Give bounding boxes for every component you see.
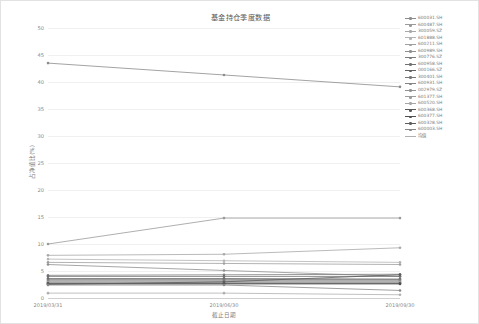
legend-color-swatch <box>405 129 416 130</box>
y-tick-label: 30 <box>37 133 44 139</box>
y-tick-label: 45 <box>37 52 44 58</box>
series-point <box>223 259 226 262</box>
legend-label: 600958.SH <box>418 61 442 68</box>
series-line <box>48 218 400 244</box>
legend-color-swatch <box>405 44 416 45</box>
y-tick-label: 40 <box>37 79 44 85</box>
series-point <box>399 289 402 292</box>
legend-label: 600368.SH <box>418 107 442 114</box>
legend-color-swatch <box>405 136 416 137</box>
legend-label: 300776.SZ <box>418 54 442 61</box>
legend-label: 600211.SH <box>418 41 442 48</box>
legend-color-swatch <box>405 123 416 124</box>
legend-color-swatch <box>405 57 416 58</box>
series-point <box>223 262 226 265</box>
legend-label: 600031.SH <box>418 15 442 22</box>
chart-figure: 基金持仓季度数据 占净值比(%) 截止日期 051015202530354045… <box>0 0 479 324</box>
y-tick-label: 35 <box>37 106 44 112</box>
legend-color-swatch <box>405 51 416 52</box>
y-tick-label: 15 <box>37 214 44 220</box>
legend-label: 601377.SH <box>418 94 442 101</box>
legend-label: 均值 <box>418 133 426 140</box>
legend-color-swatch <box>405 70 416 71</box>
y-tick-label: 20 <box>37 187 44 193</box>
legend-color-swatch <box>405 109 416 110</box>
gridline <box>48 298 400 299</box>
legend-label: 601888.SH <box>418 35 442 42</box>
legend-label: 600487.SH <box>418 22 442 29</box>
series-point <box>223 217 226 220</box>
legend-color-swatch <box>405 37 416 38</box>
legend-color-swatch <box>405 64 416 65</box>
series-point <box>47 284 50 287</box>
x-tick-label: 2019/06/30 <box>210 302 239 308</box>
series-point <box>399 86 402 89</box>
series-point <box>47 292 50 295</box>
legend-color-swatch <box>405 116 416 117</box>
series-point <box>223 74 226 77</box>
y-tick-label: 0 <box>41 295 44 301</box>
series-point <box>47 254 50 257</box>
series-point <box>223 269 226 272</box>
series-point <box>399 273 402 276</box>
legend-label: 600931.SH <box>418 80 442 87</box>
series-point <box>47 243 50 246</box>
legend-label: 002979.SZ <box>418 87 442 94</box>
legend-color-swatch <box>405 96 416 97</box>
x-tick-label: 2019/09/30 <box>386 302 415 308</box>
series-point <box>399 293 402 296</box>
y-axis-label: 占净值比(%) <box>28 145 36 179</box>
legend-color-swatch <box>405 77 416 78</box>
legend-label: 600377.SH <box>418 113 442 120</box>
x-axis-label: 截止日期 <box>48 311 400 319</box>
y-tick-label: 50 <box>37 25 44 31</box>
legend-label: 300059.SZ <box>418 28 442 35</box>
series-point <box>223 253 226 256</box>
series-point <box>223 281 226 284</box>
legend-label: 000166.SZ <box>418 67 442 74</box>
series-point <box>399 283 402 286</box>
legend-color-swatch <box>405 83 416 84</box>
series-point <box>223 284 226 287</box>
series-point <box>223 292 226 295</box>
x-tick-label: 2019/03/31 <box>34 302 63 308</box>
legend-label: 600520.SH <box>418 100 442 107</box>
legend-label: 300401.SH <box>418 74 442 81</box>
series-point <box>399 246 402 249</box>
y-tick-label: 25 <box>37 160 44 166</box>
legend-item[interactable]: 均值 <box>405 133 477 140</box>
legend-label: 600328.SH <box>418 120 442 127</box>
y-tick-label: 10 <box>37 241 44 247</box>
y-tick-label: 5 <box>41 268 44 274</box>
plot-area: 05101520253035404550 2019/03/312019/06/3… <box>48 28 400 298</box>
legend-color-swatch <box>405 24 416 25</box>
legend-color-swatch <box>405 103 416 104</box>
legend-label: 600003.SH <box>418 126 442 133</box>
legend-label: 600989.SH <box>418 48 442 55</box>
series-point <box>399 263 402 266</box>
series-point <box>399 217 402 220</box>
chart-legend: 600031.SH600487.SH300059.SZ601888.SH6002… <box>405 15 477 139</box>
legend-color-swatch <box>405 90 416 91</box>
legend-color-swatch <box>405 18 416 19</box>
legend-color-swatch <box>405 31 416 32</box>
series-lines <box>48 28 400 298</box>
series-point <box>47 263 50 266</box>
series-point <box>47 62 50 65</box>
series-point <box>47 258 50 261</box>
